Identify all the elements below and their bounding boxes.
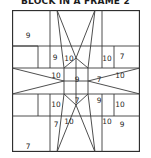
patch-label: 7 bbox=[26, 142, 31, 151]
patch-label: 10 bbox=[51, 71, 61, 80]
block-svg: 9 9 10 10 7 7 10 9 7 10 10 7 9 10 7 10 1… bbox=[12, 10, 140, 152]
patch-label: 9 bbox=[53, 53, 58, 62]
patch-label: 10 bbox=[51, 100, 61, 109]
patch-label: 7 bbox=[97, 75, 102, 84]
patch-label: 10 bbox=[64, 54, 74, 63]
patch-label: 10 bbox=[115, 71, 125, 80]
patch-label: 9 bbox=[97, 96, 102, 105]
patch-label: 10 bbox=[102, 117, 112, 126]
patch-label: 9 bbox=[26, 31, 31, 40]
patch-label: 7 bbox=[75, 96, 80, 105]
patch-label: 9 bbox=[75, 75, 80, 84]
patch-label: 10 bbox=[64, 117, 74, 126]
patch-label: 10 bbox=[102, 54, 112, 63]
page-title: BLOCK IN A FRAME 2 bbox=[0, 0, 151, 6]
quilt-block-diagram: 9 9 10 10 7 7 10 9 7 10 10 7 9 10 7 10 1… bbox=[12, 10, 140, 152]
patch-label: 9 bbox=[120, 120, 125, 129]
patch-label: 7 bbox=[120, 52, 125, 61]
diagram-page: BLOCK IN A FRAME 2 bbox=[0, 0, 151, 158]
patch-label: 7 bbox=[54, 120, 59, 129]
patch-label: 10 bbox=[115, 100, 125, 109]
